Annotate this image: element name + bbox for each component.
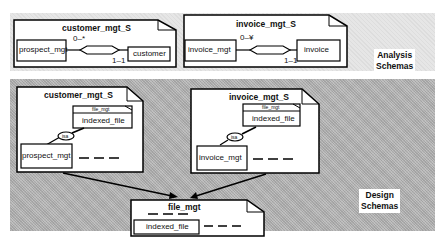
class-invoice-mgt[interactable]: invoice_mgt xyxy=(199,154,242,162)
import-arrows xyxy=(63,173,266,199)
design-file-schema-title: file_mgt xyxy=(168,203,201,212)
entity-customer[interactable]: customer xyxy=(133,50,166,58)
imported-class[interactable]: indexed_file xyxy=(82,117,125,125)
band-label-line: Design xyxy=(361,190,398,201)
band-label-line: Schemas xyxy=(361,201,398,212)
entity-prospect-mgt[interactable]: prospect_mgt xyxy=(19,46,67,54)
analysis-invoice-schema-title: invoice_mgt_S xyxy=(236,20,296,29)
imported-header: file_mgt xyxy=(92,107,110,112)
entity-invoice-mgt[interactable]: invoice_mgt xyxy=(188,46,231,54)
design-schemas-label: Design Schemas xyxy=(359,189,400,213)
class-prospect-mgt[interactable]: prospect_mgt xyxy=(22,152,70,160)
imported-class[interactable]: indexed_file xyxy=(252,115,295,123)
design-invoice-schema-title: invoice_mgt_S xyxy=(229,93,289,102)
entity-invoice[interactable]: invoice xyxy=(304,46,329,54)
band-label-line: Analysis xyxy=(376,50,413,61)
cardinality-bottom: 1–1 xyxy=(284,57,297,65)
analysis-customer-schema-title: customer_mgt_S xyxy=(62,24,131,33)
band-label-line: Schemas xyxy=(376,61,413,72)
isa-label: isa xyxy=(62,134,68,139)
design-customer-schema-title: customer_mgt_S xyxy=(44,91,113,100)
cardinality-top: 0–¥ xyxy=(240,34,253,42)
cardinality-top: 0–* xyxy=(73,35,85,43)
class-indexed-file[interactable]: indexed_file xyxy=(146,223,189,231)
cardinality-bottom: 1–1 xyxy=(112,57,125,65)
imported-header: file_mgt xyxy=(262,105,280,110)
analysis-schemas-label: Analysis Schemas xyxy=(374,49,415,73)
isa-label: isa xyxy=(231,135,237,140)
